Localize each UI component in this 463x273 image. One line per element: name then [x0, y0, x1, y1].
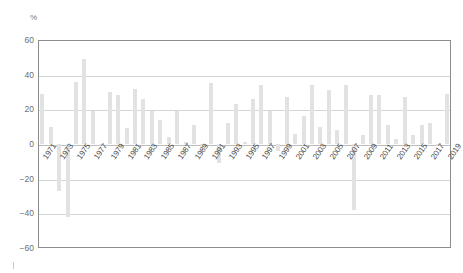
y-tick-label--40: −40 [4, 208, 34, 218]
y-tick-label-40: 40 [4, 70, 34, 80]
y-axis-tick-labels: 6040200−20−40−60 [0, 40, 34, 248]
gridline--40 [39, 214, 450, 215]
y-tick-label--60: −60 [4, 243, 34, 253]
x-axis-tick-labels: 1971197319751977197919811983198519871989… [38, 156, 451, 206]
y-tick-label-60: 60 [4, 35, 34, 45]
bar-chart: % 6040200−20−40−60 197119731975197719791… [0, 0, 463, 273]
y-tick-label-20: 20 [4, 104, 34, 114]
gridline-40 [39, 76, 450, 77]
y-tick-label-0: 0 [4, 139, 34, 149]
y-tick-label--20: −20 [4, 174, 34, 184]
bottom-stray-mark [13, 262, 14, 269]
gridline-20 [39, 110, 450, 111]
y-axis-unit-label: % [30, 13, 37, 22]
